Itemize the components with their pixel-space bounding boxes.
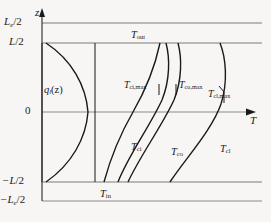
t-axis-label: T	[250, 114, 256, 126]
label-t-co: Tco	[171, 146, 183, 157]
label-t-in: Tin	[100, 188, 111, 199]
axis-label-le-half-top: Le/2	[4, 15, 22, 28]
axis-label-origin: 0	[25, 104, 31, 116]
axis-label-l-half-bottom: −L/2	[2, 174, 24, 186]
label-t-ci: Tci	[131, 141, 142, 152]
label-t-out: Tout	[131, 29, 145, 40]
axis-label-l-half-top: L/2	[9, 35, 24, 47]
label-t-cl: Tcl	[220, 143, 231, 154]
label-q-l-z: ql(z)	[44, 84, 63, 95]
label-t-co-max: Tco,max	[179, 79, 203, 90]
axis-label-le-half-bottom: −Le/2	[0, 193, 25, 206]
label-t-ci-max: Tci,max	[124, 79, 146, 90]
label-t-cl-max: Tcl,max	[208, 88, 230, 99]
z-axis-label: z	[35, 6, 39, 18]
z-axis-arrowhead	[39, 8, 45, 17]
figure-canvas: Le/2 L/2 0 −L/2 −Le/2 z T Tout Tin ql(z)…	[0, 0, 271, 222]
